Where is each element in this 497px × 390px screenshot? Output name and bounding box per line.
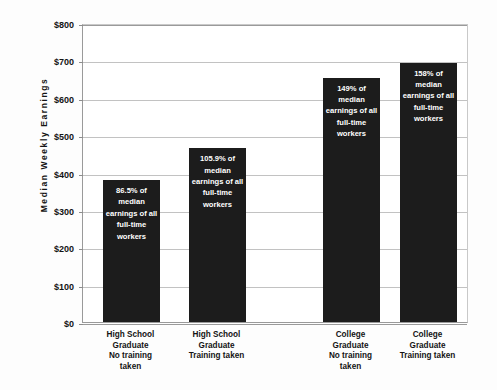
y-axis-tick-label: $700 — [54, 57, 74, 67]
y-axis-tick — [79, 62, 83, 63]
x-axis-category-label: High SchoolGraduateNo trainingtaken — [88, 330, 173, 372]
y-axis-tick — [79, 324, 83, 325]
y-axis-tick — [79, 137, 83, 138]
y-axis-tick — [79, 175, 83, 176]
category-label-line: Training taken — [385, 351, 470, 362]
category-label-line: Graduate — [88, 341, 173, 352]
bar[interactable]: $38086.5% of median earnings of all full… — [103, 180, 160, 322]
y-axis-tick-label: $500 — [54, 132, 74, 142]
y-axis-tick-label: $300 — [54, 207, 74, 217]
y-axis-tick — [79, 249, 83, 250]
category-label-line: No training — [88, 351, 173, 362]
x-axis-category-label: CollegeGraduateTraining taken — [385, 330, 470, 362]
y-axis-tick-label: $100 — [54, 282, 74, 292]
y-axis-tick-label: $400 — [54, 170, 74, 180]
category-label-line: College — [308, 330, 393, 341]
y-axis-tick — [79, 212, 83, 213]
y-axis-title: Median Weekly Earnings — [39, 15, 49, 275]
bar-annotation-text: 86.5% of median earnings of all full-tim… — [103, 180, 160, 242]
category-label-line: Training taken — [174, 351, 259, 362]
bar-annotation-text: 158% of median earnings of all full-time… — [400, 63, 457, 125]
plot-area: $0$100$200$300$400$500$600$700$800 $3808… — [82, 24, 468, 323]
bar-annotation-text: 149% of median earnings of all full-time… — [323, 78, 380, 140]
category-label-line: No training — [308, 351, 393, 362]
y-axis-tick-label: $600 — [54, 95, 74, 105]
y-axis-tick-label: $200 — [54, 244, 74, 254]
category-label-line: Graduate — [174, 341, 259, 352]
bar-chart: Median Weekly Earnings $0$100$200$300$40… — [0, 0, 497, 390]
y-axis-tick-label: $0 — [64, 319, 74, 329]
x-axis-category-label: High SchoolGraduateTraining taken — [174, 330, 259, 362]
y-axis-tick — [79, 25, 83, 26]
y-axis-tick — [79, 287, 83, 288]
category-label-line: taken — [308, 362, 393, 373]
bar-annotation-text: 105.9% of median earnings of all full-ti… — [189, 148, 246, 210]
gridline — [83, 324, 467, 325]
bar[interactable]: $654149% of median earnings of all full-… — [323, 78, 380, 322]
y-axis-tick — [79, 100, 83, 101]
bar[interactable]: $465105.9% of median earnings of all ful… — [189, 148, 246, 322]
category-label-line: High School — [88, 330, 173, 341]
bar[interactable]: $694158% of median earnings of all full-… — [400, 63, 457, 322]
category-label-line: High School — [174, 330, 259, 341]
category-label-line: taken — [88, 362, 173, 373]
category-label-line: Graduate — [308, 341, 393, 352]
x-axis-category-label: CollegeGraduateNo trainingtaken — [308, 330, 393, 372]
category-label-line: College — [385, 330, 470, 341]
y-axis-tick-label: $800 — [54, 20, 74, 30]
gridline — [83, 25, 467, 26]
category-label-line: Graduate — [385, 341, 470, 352]
